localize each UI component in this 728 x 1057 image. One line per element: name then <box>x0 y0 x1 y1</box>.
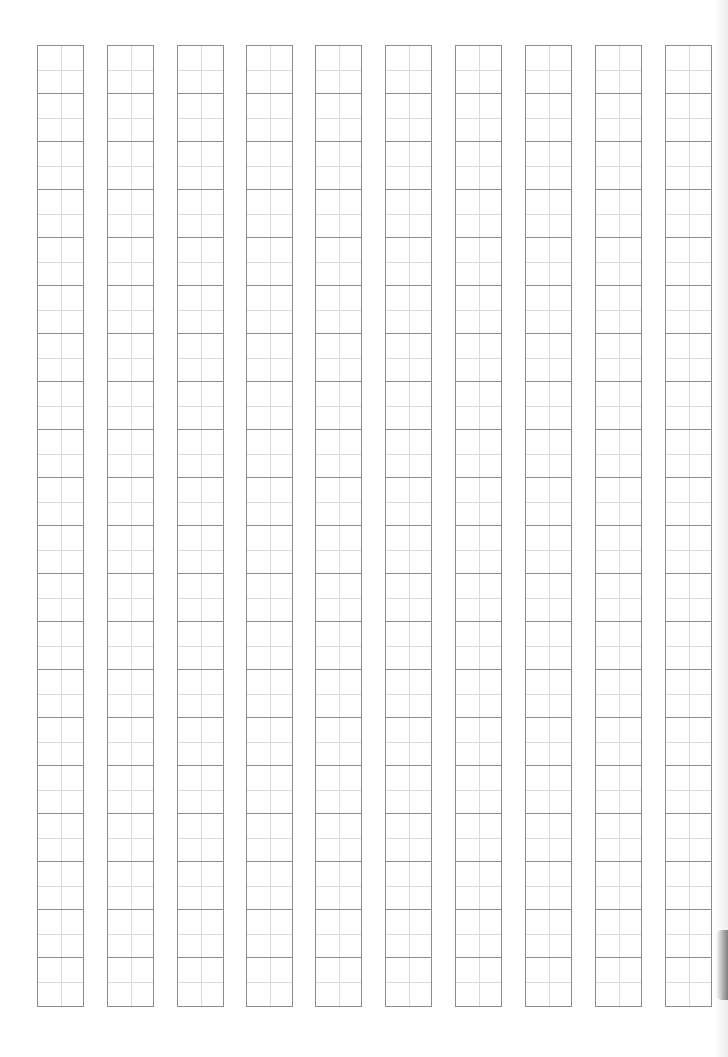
grid-cell <box>38 910 83 958</box>
grid-column-4 <box>246 45 293 1007</box>
guide-line-horizontal <box>386 406 431 407</box>
grid-cell <box>456 142 501 190</box>
grid-cell <box>456 958 501 1006</box>
guide-line-horizontal <box>108 310 153 311</box>
grid-cell <box>108 670 153 718</box>
guide-line-horizontal <box>247 550 292 551</box>
grid-cell <box>178 862 223 910</box>
grid-cell <box>596 862 641 910</box>
guide-line-horizontal <box>178 454 223 455</box>
guide-line-horizontal <box>386 214 431 215</box>
grid-cell <box>247 286 292 334</box>
guide-line-horizontal <box>526 550 571 551</box>
grid-cell <box>456 430 501 478</box>
guide-line-horizontal <box>38 838 83 839</box>
guide-line-horizontal <box>178 262 223 263</box>
grid-cell <box>526 622 571 670</box>
guide-line-horizontal <box>178 70 223 71</box>
guide-line-horizontal <box>666 694 711 695</box>
guide-line-horizontal <box>386 502 431 503</box>
grid-cell <box>526 94 571 142</box>
grid-cell <box>386 766 431 814</box>
grid-cell <box>38 670 83 718</box>
guide-line-horizontal <box>178 646 223 647</box>
grid-cell <box>456 334 501 382</box>
grid-cell <box>666 238 711 286</box>
guide-line-horizontal <box>526 646 571 647</box>
grid-cell <box>596 430 641 478</box>
guide-line-horizontal <box>38 646 83 647</box>
grid-cell <box>247 382 292 430</box>
guide-line-horizontal <box>38 694 83 695</box>
guide-line-horizontal <box>666 886 711 887</box>
guide-line-horizontal <box>316 214 361 215</box>
guide-line-horizontal <box>316 550 361 551</box>
grid-cell <box>666 190 711 238</box>
guide-line-horizontal <box>247 886 292 887</box>
grid-cell <box>456 718 501 766</box>
guide-line-horizontal <box>526 406 571 407</box>
guide-line-horizontal <box>108 214 153 215</box>
guide-line-horizontal <box>38 982 83 983</box>
grid-cell <box>316 142 361 190</box>
guide-line-horizontal <box>38 502 83 503</box>
grid-cell <box>526 526 571 574</box>
grid-cell <box>456 670 501 718</box>
guide-line-horizontal <box>526 790 571 791</box>
grid-cell <box>38 574 83 622</box>
grid-cell <box>666 814 711 862</box>
grid-cell <box>666 46 711 94</box>
grid-cell <box>38 478 83 526</box>
grid-cell <box>526 430 571 478</box>
guide-line-horizontal <box>38 310 83 311</box>
grid-cell <box>386 334 431 382</box>
grid-cell <box>526 142 571 190</box>
guide-line-horizontal <box>316 646 361 647</box>
guide-line-horizontal <box>456 694 501 695</box>
guide-line-horizontal <box>456 886 501 887</box>
grid-cell <box>316 670 361 718</box>
grid-cell <box>316 478 361 526</box>
guide-line-horizontal <box>316 790 361 791</box>
guide-line-horizontal <box>386 262 431 263</box>
grid-cell <box>316 94 361 142</box>
guide-line-horizontal <box>596 310 641 311</box>
guide-line-horizontal <box>456 838 501 839</box>
grid-cell <box>526 382 571 430</box>
grid-cell <box>456 478 501 526</box>
guide-line-horizontal <box>386 790 431 791</box>
guide-line-horizontal <box>666 358 711 359</box>
grid-cell <box>38 622 83 670</box>
grid-cell <box>456 94 501 142</box>
guide-line-horizontal <box>247 214 292 215</box>
grid-cell <box>108 190 153 238</box>
guide-line-horizontal <box>108 358 153 359</box>
guide-line-horizontal <box>596 982 641 983</box>
grid-cell <box>38 814 83 862</box>
grid-cell <box>247 766 292 814</box>
guide-line-horizontal <box>666 550 711 551</box>
grid-cell <box>178 574 223 622</box>
grid-cell <box>316 910 361 958</box>
guide-line-horizontal <box>456 982 501 983</box>
grid-cell <box>178 142 223 190</box>
grid-cell <box>38 526 83 574</box>
guide-line-horizontal <box>316 742 361 743</box>
grid-cell <box>247 910 292 958</box>
guide-line-horizontal <box>316 118 361 119</box>
guide-line-horizontal <box>456 454 501 455</box>
guide-line-horizontal <box>596 694 641 695</box>
grid-cell <box>456 526 501 574</box>
grid-cell <box>108 574 153 622</box>
grid-cell <box>178 430 223 478</box>
grid-cell <box>316 190 361 238</box>
guide-line-horizontal <box>526 502 571 503</box>
guide-line-horizontal <box>316 694 361 695</box>
grid-cell <box>247 670 292 718</box>
guide-line-horizontal <box>456 406 501 407</box>
grid-cell <box>247 238 292 286</box>
guide-line-horizontal <box>596 454 641 455</box>
grid-cell <box>596 238 641 286</box>
guide-line-horizontal <box>526 166 571 167</box>
guide-line-horizontal <box>386 550 431 551</box>
